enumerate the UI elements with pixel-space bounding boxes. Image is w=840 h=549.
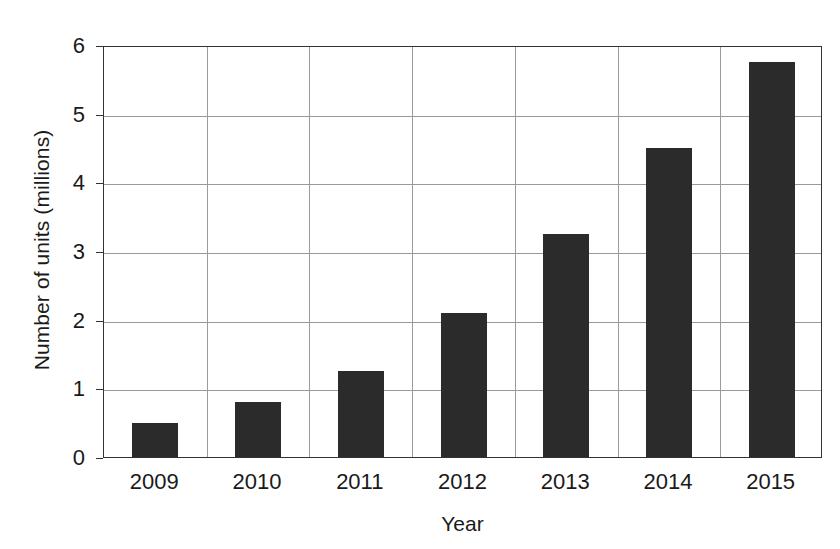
y-tick-label: 4 — [45, 172, 85, 194]
bar-2015 — [749, 62, 795, 457]
bar-2013 — [543, 234, 589, 457]
bars-layer — [104, 47, 821, 457]
x-tick-label-2012: 2012 — [408, 470, 518, 494]
y-tick-label: 0 — [45, 447, 85, 469]
bar-chart-figure: Number of units (millions) 0123456 20092… — [0, 0, 840, 549]
x-tick-label-2011: 2011 — [305, 470, 415, 494]
y-tick-label: 1 — [45, 378, 85, 400]
y-tick-mark — [96, 458, 103, 459]
x-tick-label-2014: 2014 — [613, 470, 723, 494]
bar-2014 — [646, 148, 692, 457]
x-tick-label-2010: 2010 — [202, 470, 312, 494]
x-tick-label-2013: 2013 — [510, 470, 620, 494]
y-tick-label: 6 — [45, 35, 85, 57]
y-tick-mark — [96, 321, 103, 322]
y-tick-mark — [96, 46, 103, 47]
y-tick-label: 2 — [45, 310, 85, 332]
y-tick-mark — [96, 115, 103, 116]
y-tick-label: 3 — [45, 241, 85, 263]
x-tick-label-2009: 2009 — [99, 470, 209, 494]
x-axis-title: Year — [103, 512, 822, 536]
bar-2011 — [338, 371, 384, 457]
bar-2009 — [132, 423, 178, 457]
bar-2012 — [441, 313, 487, 457]
plot-area — [103, 46, 822, 458]
x-tick-label-2015: 2015 — [716, 470, 826, 494]
y-tick-mark — [96, 389, 103, 390]
y-tick-mark — [96, 252, 103, 253]
y-tick-label: 5 — [45, 104, 85, 126]
bar-2010 — [235, 402, 281, 457]
y-tick-mark — [96, 183, 103, 184]
